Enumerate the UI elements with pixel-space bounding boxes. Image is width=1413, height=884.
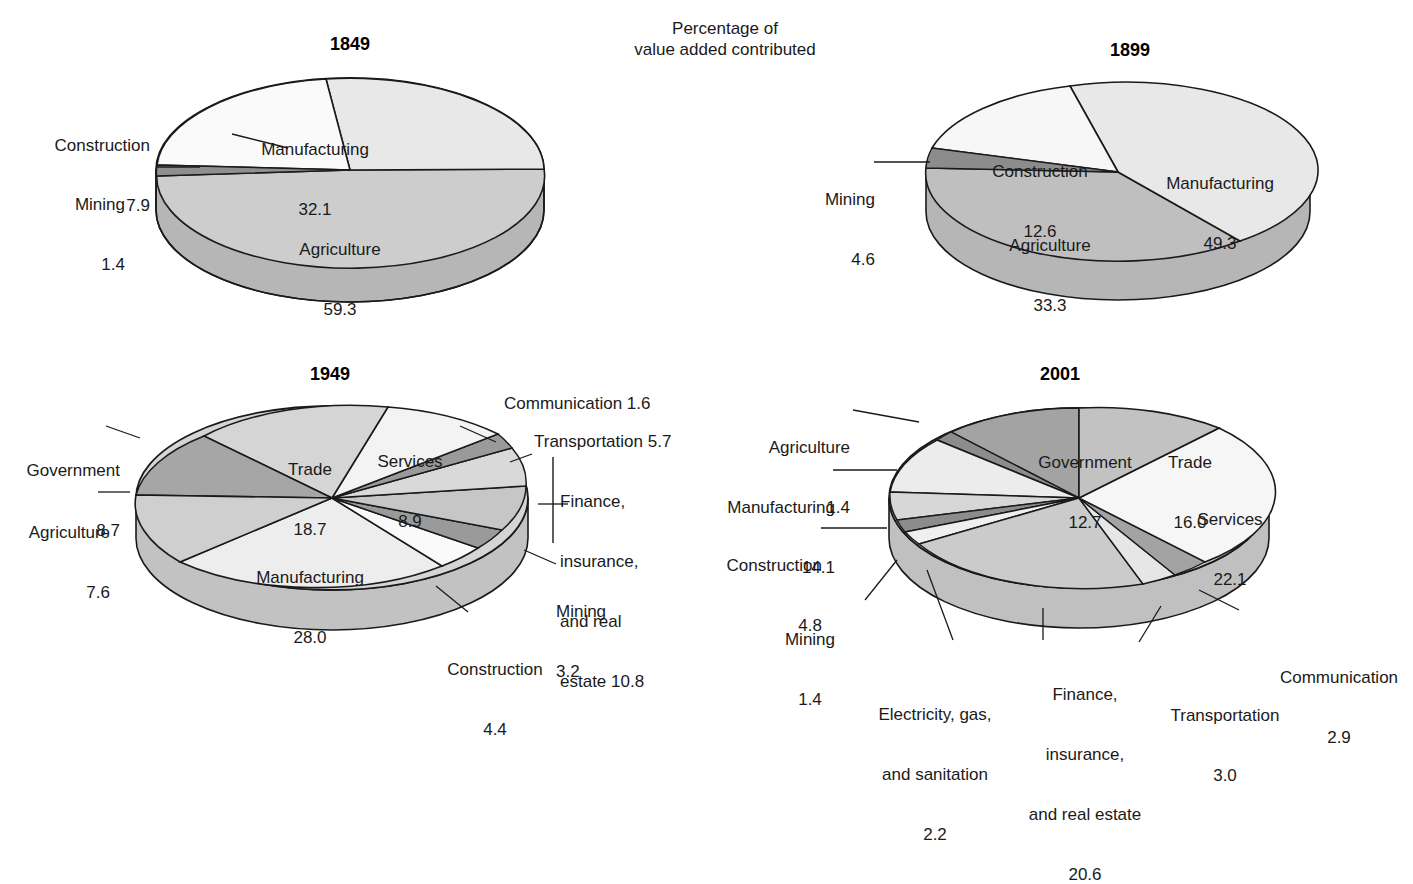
label-name: Mining xyxy=(760,190,875,210)
label-name: Manufacturing xyxy=(225,568,395,588)
label-name: Mining xyxy=(760,630,860,650)
label-value: 7.6 xyxy=(0,583,110,603)
slice-label-1899-manufacturing: Manufacturing 49.3 xyxy=(1135,134,1305,294)
slice-label-1949-construction: Construction 4.4 xyxy=(420,620,570,780)
label-name: Manufacturing xyxy=(1135,174,1305,194)
label-line1: Finance, xyxy=(560,492,690,512)
label-value: 1.4 xyxy=(10,255,125,275)
slice-label-2001-communication: Communication 2.9 xyxy=(1265,628,1413,788)
chart-title-1899: 1899 xyxy=(1030,40,1230,61)
label-name: Mining xyxy=(10,195,125,215)
slice-label-1949-mining: Mining 3.2 xyxy=(556,562,666,722)
label-value: 4.4 xyxy=(420,720,570,740)
percentage-note-line2: value added contributed xyxy=(600,39,850,60)
label-value: 28.0 xyxy=(225,628,395,648)
slice-label-1949-communication: Communication 1.6 xyxy=(504,394,724,414)
label-name: Government xyxy=(0,461,120,481)
label-value: 20.6 xyxy=(1000,865,1170,884)
label-name: Construction xyxy=(10,136,150,156)
label-name: Manufacturing xyxy=(235,140,395,160)
label-name: Government xyxy=(1015,453,1155,473)
label-value: 4.6 xyxy=(760,250,875,270)
chart-title-1849: 1849 xyxy=(250,34,450,55)
label-name: Construction xyxy=(420,660,570,680)
slice-label-1899-construction: Construction 12.6 xyxy=(965,122,1115,282)
slice-label-1949-manufacturing: Manufacturing 28.0 xyxy=(225,528,395,688)
label-name: Agriculture xyxy=(700,438,850,458)
slice-label-1899-mining: Mining 4.6 xyxy=(760,150,875,310)
percentage-note-line1: Percentage of xyxy=(600,18,850,39)
label-value: 33.3 xyxy=(975,296,1125,316)
label-name: Mining xyxy=(556,602,666,622)
chart-title-1949: 1949 xyxy=(230,364,430,385)
label-name: Construction xyxy=(700,556,822,576)
bracket-1949-finance xyxy=(546,455,560,545)
slice-label-1849-agriculture: Agriculture 59.3 xyxy=(265,200,415,360)
label-value: 3.2 xyxy=(556,662,666,682)
chart-title-2001: 2001 xyxy=(960,364,1160,385)
slice-label-1849-mining: Mining 1.4 xyxy=(10,155,125,315)
label-name: Services xyxy=(1175,510,1285,530)
percentage-note: Percentage of value added contributed xyxy=(600,18,850,60)
label-value: 12.7 xyxy=(1015,513,1155,533)
label-name: Agriculture xyxy=(0,523,110,543)
label-name: Manufacturing xyxy=(690,498,835,518)
label-value: 49.3 xyxy=(1135,234,1305,254)
label-value: 22.1 xyxy=(1175,570,1285,590)
slice-label-2001-services: Services 22.1 xyxy=(1175,470,1285,630)
label-name: Trade xyxy=(255,460,365,480)
label-value: 2.9 xyxy=(1265,728,1413,748)
label-name: Construction xyxy=(965,162,1115,182)
label-value: 59.3 xyxy=(265,300,415,320)
label-value: 12.6 xyxy=(965,222,1115,242)
label-name: Communication xyxy=(1265,668,1413,688)
slice-label-1949-agriculture: Agriculture 7.6 xyxy=(0,483,110,643)
slice-label-2001-government: Government 12.7 xyxy=(1015,413,1155,573)
label-name: Services xyxy=(355,452,465,472)
label-name: Agriculture xyxy=(265,240,415,260)
